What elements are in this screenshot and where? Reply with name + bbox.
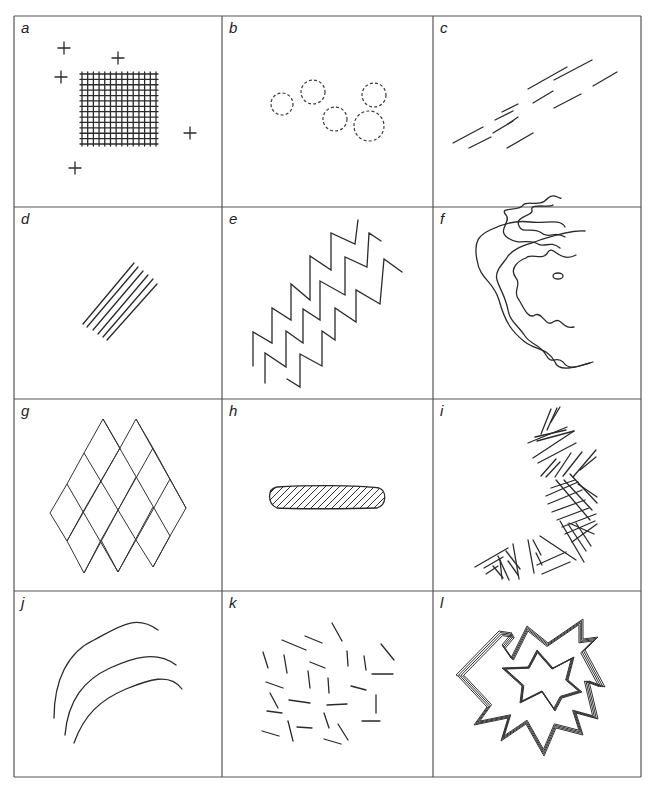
dashed-circle xyxy=(354,111,384,141)
short-segment xyxy=(381,644,394,660)
dashed-circle xyxy=(362,83,386,107)
hatch-line xyxy=(323,484,349,510)
dash-segment xyxy=(502,104,518,112)
hatch-segment xyxy=(573,450,596,477)
parallel-line xyxy=(87,267,138,327)
zigzag-line xyxy=(265,233,381,383)
hatch-lines xyxy=(239,484,419,510)
short-segment xyxy=(327,704,347,705)
hatch-segment xyxy=(551,480,575,488)
plus-mark xyxy=(184,127,196,139)
hatch-segment xyxy=(563,452,582,476)
short-segment xyxy=(324,713,329,728)
outer-starburst-stroke xyxy=(458,621,603,754)
panel-l-nested-starbursts xyxy=(456,619,605,756)
hatch-segment xyxy=(548,490,582,504)
hatch-line xyxy=(239,484,265,510)
panel-f-contour-lines xyxy=(476,196,593,368)
hatch-segment xyxy=(551,407,560,422)
hatch-line xyxy=(267,484,293,510)
hatch-line xyxy=(246,484,272,510)
hatch-segment xyxy=(528,540,534,573)
short-segment xyxy=(332,623,342,641)
plus-mark xyxy=(58,42,70,54)
dashed-circle xyxy=(301,80,325,104)
panel-label-i: i xyxy=(440,402,444,419)
dash-segment xyxy=(469,137,491,148)
lattice-line xyxy=(153,536,170,567)
hatch-line xyxy=(344,484,370,510)
contour-line xyxy=(513,250,576,327)
dash-segment xyxy=(554,94,581,108)
hatch-segment xyxy=(533,431,574,458)
hatch-segment xyxy=(552,500,585,512)
hatch-line xyxy=(330,484,356,510)
panel-b-dashed-circles xyxy=(271,80,386,141)
hatch-line xyxy=(316,484,342,510)
lattice-line xyxy=(84,448,120,510)
dash-segment xyxy=(495,111,513,120)
short-segment xyxy=(282,640,306,650)
panel-label-h: h xyxy=(229,402,237,419)
dash-segment xyxy=(528,67,567,89)
short-segment xyxy=(324,739,341,744)
hatch-line xyxy=(281,484,307,510)
hatch-line xyxy=(274,484,300,510)
dash-segment xyxy=(533,91,553,103)
short-segment xyxy=(297,727,312,728)
short-segment xyxy=(305,636,322,643)
short-segment xyxy=(270,693,278,708)
hatch-line xyxy=(288,484,314,510)
short-segment xyxy=(328,678,329,693)
panel-label-c: c xyxy=(440,19,448,36)
panel-d-parallel-lines xyxy=(83,263,157,340)
plus-mark xyxy=(55,71,67,83)
panel-g-diamond-lattice xyxy=(50,419,186,573)
dash-segment xyxy=(453,127,483,143)
short-segment xyxy=(310,662,325,668)
panel-c-diagonal-dashes xyxy=(453,60,617,148)
hatch-segment xyxy=(547,408,557,430)
panel-label-g: g xyxy=(21,402,30,419)
panel-i-herringbone-clusters xyxy=(475,407,597,580)
dashed-circle xyxy=(323,107,347,131)
dash-segment xyxy=(554,60,592,80)
short-segment xyxy=(266,682,283,688)
hatch-line xyxy=(337,484,363,510)
lattice-line xyxy=(67,510,84,541)
short-segment xyxy=(263,652,268,668)
hatch-segment xyxy=(568,524,586,551)
panel-label-f: f xyxy=(440,210,446,227)
panel-e-zigzag-lines xyxy=(253,220,402,387)
outer-starburst-stroke xyxy=(456,619,605,756)
panel-label-k: k xyxy=(229,594,238,611)
panel-label-e: e xyxy=(229,210,237,227)
dash-segment xyxy=(593,72,617,86)
short-segment xyxy=(284,655,287,673)
parallel-line xyxy=(93,271,143,330)
plus-mark xyxy=(69,162,81,174)
parallel-line xyxy=(107,284,157,340)
contour-line xyxy=(476,221,593,368)
lattice-outline xyxy=(50,419,186,573)
arc-line xyxy=(74,679,182,743)
hatch-line xyxy=(309,484,335,510)
short-segment xyxy=(267,711,282,713)
panel-k-random-segments xyxy=(262,623,394,744)
hatch-segment xyxy=(506,551,520,569)
short-segment xyxy=(347,651,348,666)
panel-label-j: j xyxy=(19,594,25,611)
panel-label-a: a xyxy=(21,19,29,36)
hatch-line xyxy=(302,484,328,510)
hatch-line xyxy=(386,484,412,510)
dash-segment xyxy=(508,117,518,124)
hatch-segment xyxy=(541,409,551,434)
short-segment xyxy=(289,700,310,703)
short-segment xyxy=(338,724,348,740)
plus-mark xyxy=(112,52,124,64)
parallel-line xyxy=(83,263,134,324)
panel-label-b: b xyxy=(229,19,237,36)
short-segment xyxy=(288,721,293,741)
hatch-segment xyxy=(542,562,570,574)
hatch-line xyxy=(295,484,321,510)
